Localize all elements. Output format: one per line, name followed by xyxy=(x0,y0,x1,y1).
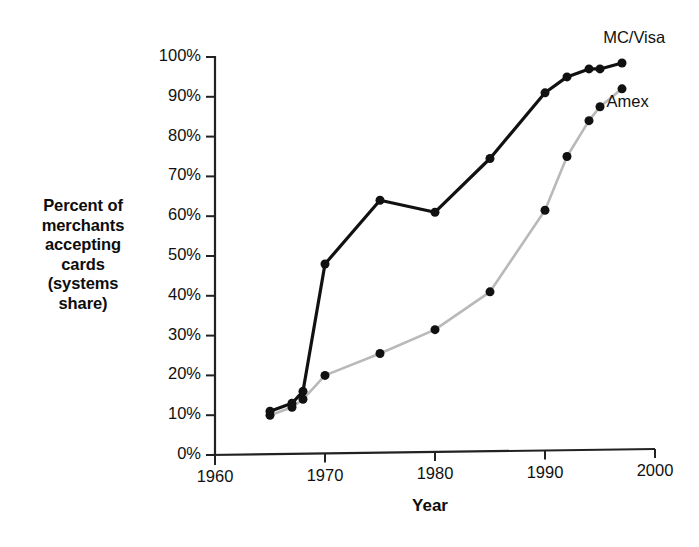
data-point xyxy=(321,371,330,380)
y-tick-label: 0% xyxy=(177,444,201,463)
data-point xyxy=(596,64,605,73)
data-point xyxy=(563,152,572,161)
data-point xyxy=(541,88,550,97)
chart-figure: Percent ofmerchantsacceptingcards(system… xyxy=(0,0,699,547)
x-tick-label: 1980 xyxy=(395,464,475,483)
data-point xyxy=(585,64,594,73)
data-point xyxy=(299,387,308,396)
data-point xyxy=(288,399,297,408)
series-label-mcvisa: MC/Visa xyxy=(603,28,665,47)
data-point xyxy=(431,325,440,334)
data-point xyxy=(486,287,495,296)
x-tick-label: 1960 xyxy=(175,467,255,486)
data-point xyxy=(585,116,594,125)
data-point xyxy=(299,395,308,404)
x-tick-label: 1970 xyxy=(285,466,365,485)
y-tick-label: 80% xyxy=(168,126,201,145)
y-tick-label: 40% xyxy=(168,285,201,304)
y-tick-label: 10% xyxy=(168,404,201,423)
data-point xyxy=(431,208,440,217)
data-point xyxy=(266,407,275,416)
data-point xyxy=(596,102,605,111)
series-line-amex xyxy=(270,89,622,415)
x-axis-line xyxy=(209,449,655,455)
y-tick-label: 30% xyxy=(168,325,201,344)
data-point xyxy=(563,72,572,81)
data-point xyxy=(541,206,550,215)
data-point xyxy=(321,259,330,268)
y-tick-label: 90% xyxy=(168,86,201,105)
y-tick-label: 50% xyxy=(168,245,201,264)
data-point xyxy=(618,58,627,67)
y-tick-label: 70% xyxy=(168,165,201,184)
x-tick-label: 1990 xyxy=(505,463,585,482)
series-label-amex: Amex xyxy=(607,92,649,111)
data-point xyxy=(486,154,495,163)
data-point xyxy=(376,196,385,205)
x-tick-label: 2000 xyxy=(615,461,695,480)
y-tick-label: 20% xyxy=(168,364,201,383)
series-line-mcvisa xyxy=(270,63,622,411)
data-point xyxy=(376,349,385,358)
y-tick-label: 100% xyxy=(159,46,201,65)
y-tick-label: 60% xyxy=(168,205,201,224)
